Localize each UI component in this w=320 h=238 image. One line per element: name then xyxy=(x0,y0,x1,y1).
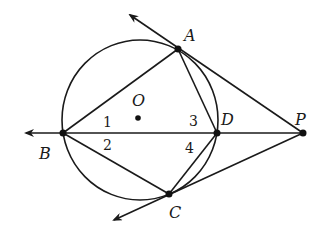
label-o: O xyxy=(132,91,145,110)
tangent-pa xyxy=(130,15,303,133)
label-a: A xyxy=(182,26,196,45)
angle-label-4: 4 xyxy=(185,140,194,156)
chord-bc xyxy=(63,133,169,194)
point-b xyxy=(60,130,67,137)
chord-ba xyxy=(63,49,178,133)
point-p xyxy=(300,130,307,137)
label-c: C xyxy=(169,203,181,222)
point-c xyxy=(166,191,173,198)
angle-label-2: 2 xyxy=(103,137,112,153)
geometry-diagram: A B C D P O 1 2 3 4 xyxy=(0,0,320,238)
label-d: D xyxy=(220,110,234,129)
point-d xyxy=(214,130,221,137)
point-a xyxy=(175,46,182,53)
angle-label-1: 1 xyxy=(103,114,112,130)
angle-label-3: 3 xyxy=(189,113,198,129)
point-o xyxy=(135,115,141,121)
label-b: B xyxy=(38,144,51,163)
tangent-pc xyxy=(114,133,303,220)
label-p: P xyxy=(294,110,306,129)
